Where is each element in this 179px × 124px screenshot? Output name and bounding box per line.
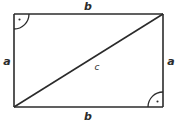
label-top-side: b [84,0,92,13]
label-left-side: a [3,55,10,68]
rectangle-diagonal-diagram: b a a b c [0,0,179,124]
label-bottom-side: b [84,110,92,123]
right-angle-dot-top-left-icon [18,18,20,20]
label-right-side: a [167,55,174,68]
right-angle-dot-bottom-right-icon [156,100,158,102]
diagram-background [0,0,179,124]
geometry-figure: b a a b c [0,0,179,124]
label-diagonal: c [95,62,100,72]
